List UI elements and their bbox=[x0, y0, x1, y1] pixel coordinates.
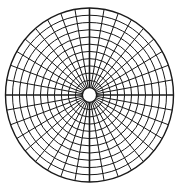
polar-grid-figure bbox=[0, 0, 178, 193]
inner-circle bbox=[82, 88, 96, 103]
spoke-line bbox=[97, 96, 173, 110]
spoke-line bbox=[75, 102, 88, 180]
spoke-line bbox=[7, 96, 83, 110]
spoke-line bbox=[7, 80, 83, 94]
spoke-line bbox=[97, 80, 173, 94]
spoke-line bbox=[91, 102, 104, 180]
polar-grid bbox=[0, 0, 178, 193]
spoke-line bbox=[91, 9, 104, 87]
spoke-line bbox=[75, 9, 88, 87]
